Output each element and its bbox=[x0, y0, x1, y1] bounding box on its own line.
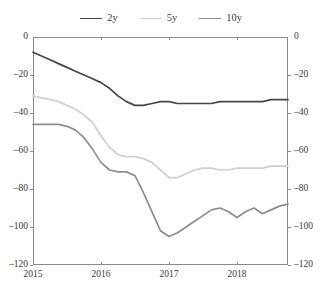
legend-label-2y: 2y bbox=[107, 13, 118, 24]
y-tick-mark bbox=[30, 227, 33, 228]
y-tick-label-left: 0 bbox=[23, 32, 28, 42]
y-axis-left: 0–20–40–60–80–100–120 bbox=[0, 37, 32, 265]
y-tick-mark bbox=[288, 189, 291, 190]
series-line-5y bbox=[33, 96, 288, 178]
legend-swatch-2y bbox=[80, 18, 102, 19]
y-tick-mark bbox=[288, 151, 291, 152]
legend-item-5y: 5y bbox=[140, 13, 178, 24]
y-tick-label-left: –80 bbox=[14, 184, 28, 194]
y-tick-mark bbox=[30, 189, 33, 190]
y-tick-mark bbox=[288, 227, 291, 228]
y-tick-label-right: –40 bbox=[294, 108, 308, 118]
y-axis-right: 0–20–40–60–80–100–120 bbox=[289, 37, 321, 265]
legend-swatch-10y bbox=[199, 18, 221, 19]
y-tick-label-right: –120 bbox=[294, 260, 313, 270]
series-line-10y bbox=[33, 124, 288, 236]
y-tick-label-left: –60 bbox=[14, 146, 28, 156]
y-tick-label-right: –20 bbox=[294, 70, 308, 80]
legend-item-10y: 10y bbox=[199, 13, 242, 24]
chart-legend: 2y 5y 10y bbox=[0, 8, 322, 28]
y-tick-mark bbox=[288, 113, 291, 114]
y-tick-mark bbox=[288, 265, 291, 266]
y-tick-mark bbox=[30, 151, 33, 152]
x-tick-mark bbox=[169, 37, 170, 40]
legend-label-10y: 10y bbox=[226, 13, 242, 24]
y-tick-label-left: –20 bbox=[14, 70, 28, 80]
plot-lines bbox=[33, 37, 288, 265]
y-tick-label-left: –40 bbox=[14, 108, 28, 118]
x-tick-mark bbox=[237, 37, 238, 40]
chart-container: 2y 5y 10y 0–20–40–60–80–100–120 0–20–40–… bbox=[0, 0, 322, 296]
x-tick-mark bbox=[237, 262, 238, 265]
x-tick-label: 2018 bbox=[228, 270, 247, 280]
legend-item-2y: 2y bbox=[80, 13, 118, 24]
x-tick-mark bbox=[169, 262, 170, 265]
legend-label-5y: 5y bbox=[167, 13, 178, 24]
y-tick-label-right: 0 bbox=[294, 32, 299, 42]
y-tick-mark bbox=[30, 75, 33, 76]
x-tick-mark bbox=[101, 37, 102, 40]
y-tick-label-right: –60 bbox=[294, 146, 308, 156]
y-tick-mark bbox=[30, 113, 33, 114]
y-tick-label-right: –80 bbox=[294, 184, 308, 194]
y-tick-mark bbox=[288, 75, 291, 76]
x-tick-label: 2017 bbox=[160, 270, 179, 280]
x-tick-label: 2015 bbox=[24, 270, 43, 280]
y-tick-label-right: –100 bbox=[294, 222, 313, 232]
x-tick-mark bbox=[101, 262, 102, 265]
y-tick-label-left: –100 bbox=[9, 222, 28, 232]
legend-swatch-5y bbox=[140, 18, 162, 19]
y-tick-mark bbox=[30, 265, 33, 266]
series-line-2y bbox=[33, 52, 288, 105]
x-tick-label: 2016 bbox=[92, 270, 111, 280]
